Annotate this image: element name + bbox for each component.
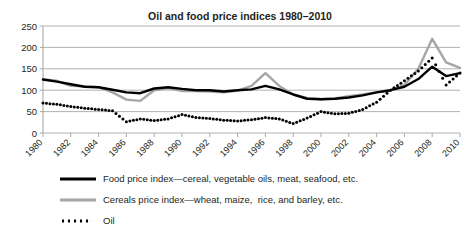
svg-text:1986: 1986: [107, 137, 128, 158]
series-oil: [42, 57, 462, 125]
series-cereals-price-index: [43, 39, 460, 101]
svg-text:2006: 2006: [385, 137, 406, 158]
svg-text:2004: 2004: [357, 137, 378, 158]
legend-swatch-solid-black-icon: [60, 173, 96, 185]
series-food-price-index: [43, 67, 460, 100]
svg-text:1998: 1998: [273, 137, 294, 158]
chart-legend: Food price index—cereal, vegetable oils,…: [0, 168, 467, 231]
legend-label-oil: Oil: [103, 215, 115, 226]
svg-text:100: 100: [21, 85, 37, 96]
y-axis-tick-labels: 050100150200250: [21, 21, 37, 139]
svg-text:1994: 1994: [218, 137, 239, 158]
svg-text:0: 0: [32, 128, 37, 139]
svg-text:150: 150: [21, 63, 37, 74]
svg-text:200: 200: [21, 42, 37, 53]
grid-lines: [43, 26, 460, 133]
svg-text:2000: 2000: [301, 137, 322, 158]
legend-swatch-solid-grey-icon: [60, 194, 96, 206]
legend-label-cereals-price-index: Cereals price index—wheat, maize, rice, …: [103, 194, 343, 205]
svg-text:1992: 1992: [190, 137, 211, 158]
svg-text:2008: 2008: [412, 137, 433, 158]
svg-text:1984: 1984: [79, 137, 100, 158]
svg-text:1996: 1996: [246, 137, 267, 158]
legend-item-cereals-price-index: Cereals price index—wheat, maize, rice, …: [0, 189, 467, 210]
legend-item-oil: Oil: [0, 210, 467, 231]
svg-text:2010: 2010: [440, 137, 461, 158]
svg-text:1982: 1982: [51, 137, 72, 158]
x-axis: [43, 133, 460, 137]
legend-swatch-dotted-icon: [60, 215, 96, 227]
svg-text:250: 250: [21, 21, 37, 32]
chart-figure: 050100150200250 198019821984198619881990…: [0, 0, 467, 243]
svg-text:1990: 1990: [162, 137, 183, 158]
svg-text:50: 50: [26, 106, 37, 117]
chart-title: Oil and food price indices 1980–2010: [148, 10, 332, 22]
legend-label-food-price-index: Food price index—cereal, vegetable oils,…: [103, 173, 358, 184]
svg-text:2002: 2002: [329, 137, 350, 158]
legend-item-food-price-index: Food price index—cereal, vegetable oils,…: [0, 168, 467, 189]
x-axis-tick-labels: 1980198219841986198819901992199419961998…: [23, 137, 461, 158]
svg-text:1988: 1988: [134, 137, 155, 158]
svg-text:1980: 1980: [23, 137, 44, 158]
